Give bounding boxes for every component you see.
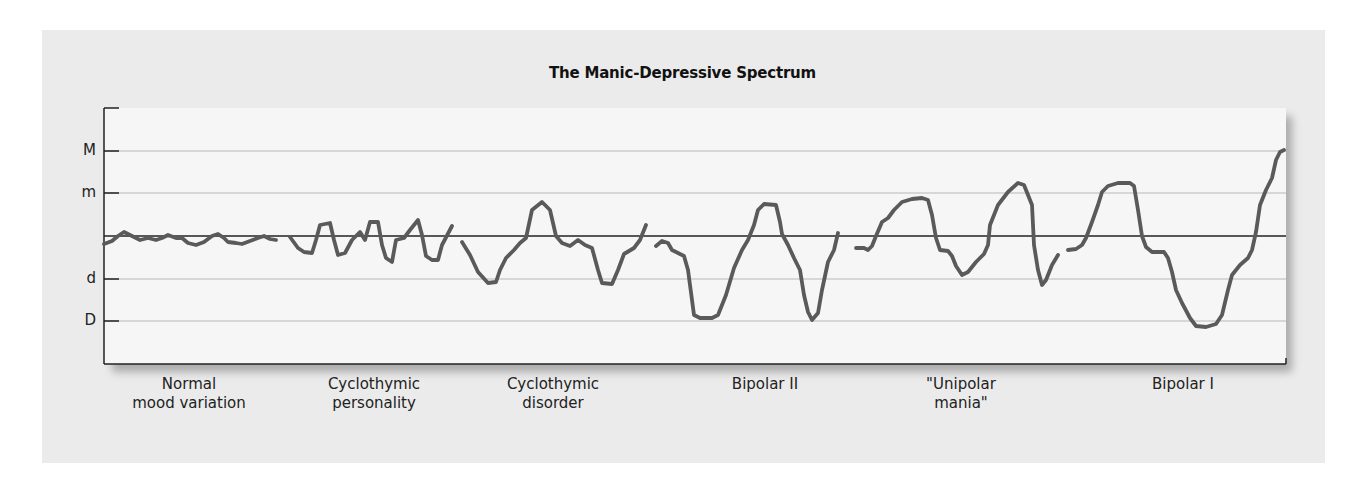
x-category-label: Bipolar I <box>1152 375 1214 394</box>
mood-curve-4 <box>856 183 1058 285</box>
y-tick-label-M: M <box>66 141 96 159</box>
mood-curve-0 <box>104 232 276 245</box>
chart-svg <box>0 0 1365 486</box>
mood-curve-3 <box>656 204 838 320</box>
y-tick-label-m: m <box>66 183 96 201</box>
x-category-label: Cyclothymic disorder <box>507 375 599 413</box>
y-tick-label-D: D <box>66 311 96 329</box>
x-category-label: Normal mood variation <box>132 375 246 413</box>
mood-curve-2 <box>462 202 646 284</box>
x-category-label: Cyclothymic personality <box>328 375 420 413</box>
y-tick-label-d: d <box>66 269 96 287</box>
x-category-label: "Unipolar mania" <box>926 375 996 413</box>
mood-curves <box>104 150 1284 327</box>
gridlines <box>104 151 1286 321</box>
mood-curve-1 <box>290 220 452 262</box>
x-category-label: Bipolar II <box>732 375 798 394</box>
mood-curve-5 <box>1068 150 1284 327</box>
